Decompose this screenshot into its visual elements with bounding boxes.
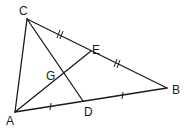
double-tick-ce	[57, 30, 63, 39]
label-c: C	[19, 4, 28, 18]
label-b: B	[172, 83, 180, 97]
side-ca	[15, 19, 27, 112]
label-d: D	[84, 105, 93, 119]
tick-mark-db	[122, 92, 123, 99]
median-cd	[27, 19, 83, 101]
label-g: G	[46, 69, 55, 83]
triangle-diagram: C A B E D G	[0, 0, 189, 130]
tick-mark-ad	[50, 103, 51, 110]
label-e: E	[92, 43, 100, 57]
label-a: A	[6, 114, 14, 128]
